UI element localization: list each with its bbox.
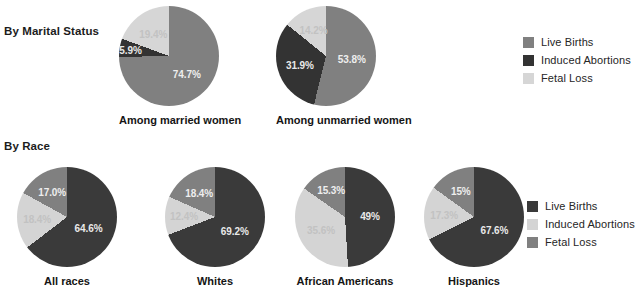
legend-label: Live Births bbox=[545, 200, 597, 212]
legend-item[interactable]: Fetal Loss bbox=[523, 70, 631, 86]
pie-chart-all-races: 64.6%18.4%17.0% All races bbox=[17, 167, 117, 267]
pie-graphic: 74.7%5.9%19.4% bbox=[119, 6, 219, 106]
pie-slice-label: 53.8% bbox=[338, 54, 366, 65]
section-title-marital-status: By Marital Status bbox=[4, 25, 99, 37]
pie-slice-label: 31.9% bbox=[286, 59, 314, 70]
pie-chart-hispanics: 67.6%17.3%15% Hispanics bbox=[424, 167, 524, 267]
pie-chart-among-unmarried-women: 53.8%31.9%14.2% Among unmarried women bbox=[276, 6, 376, 106]
pie-slice-label: 67.6% bbox=[480, 224, 508, 235]
pie-slice-label: 74.7% bbox=[173, 68, 201, 79]
section-title-race: By Race bbox=[4, 140, 50, 152]
legend-label: Induced Abortions bbox=[545, 218, 635, 230]
pie-graphic: 64.6%18.4%17.0% bbox=[17, 167, 117, 267]
legend-item[interactable]: Live Births bbox=[523, 34, 631, 50]
legend-item[interactable]: Live Births bbox=[527, 198, 635, 214]
pie-slice-label: 18.4% bbox=[23, 214, 51, 225]
pie-slice-label: 17.3% bbox=[430, 209, 458, 220]
legend-item[interactable]: Induced Abortions bbox=[523, 52, 631, 68]
pie-chart-whites: 69.2%12.4%18.4% Whites bbox=[165, 167, 265, 267]
pie-slice-label: 35.6% bbox=[307, 225, 335, 236]
legend-swatch-induced-abortions bbox=[523, 55, 534, 66]
pie-graphic: 69.2%12.4%18.4% bbox=[165, 167, 265, 267]
legend-label: Induced Abortions bbox=[541, 54, 631, 66]
legend-item[interactable]: Fetal Loss bbox=[527, 234, 635, 250]
pie-caption: Among married women bbox=[119, 114, 219, 126]
legend-label: Fetal Loss bbox=[541, 72, 593, 84]
legend-bottom: Live BirthsInduced AbortionsFetal Loss bbox=[527, 198, 635, 252]
pie-slice-label: 17.0% bbox=[38, 187, 66, 198]
pie-graphic: 53.8%31.9%14.2% bbox=[276, 6, 376, 106]
pie-slice-label: 64.6% bbox=[75, 222, 103, 233]
pie-slice-label: 14.2% bbox=[300, 24, 328, 35]
pie-slice-label: 12.4% bbox=[170, 211, 198, 222]
pie-graphic: 67.6%17.3%15% bbox=[424, 167, 524, 267]
legend-swatch-live-births bbox=[523, 37, 534, 48]
pie-slice-label: 15% bbox=[451, 186, 471, 197]
pie-caption: Among unmarried women bbox=[276, 114, 376, 126]
pie-chart-among-married-women: 74.7%5.9%19.4% Among married women bbox=[119, 6, 219, 106]
legend-item[interactable]: Induced Abortions bbox=[527, 216, 635, 232]
pie-slice-label: 19.4% bbox=[139, 28, 167, 39]
pie-slice-label: 49% bbox=[360, 211, 380, 222]
pie-graphic: 49%35.6%15.3% bbox=[295, 167, 395, 267]
legend-swatch-induced-abortions bbox=[527, 219, 538, 230]
pie-caption: African Americans bbox=[295, 275, 395, 287]
legend-label: Live Births bbox=[541, 36, 593, 48]
pie-slice-label: 5.9% bbox=[119, 44, 141, 55]
pie-slice-label: 18.4% bbox=[185, 187, 213, 198]
legend-swatch-live-births bbox=[527, 201, 538, 212]
pie-chart-african-americans: 49%35.6%15.3% African Americans bbox=[295, 167, 395, 267]
pie-caption: Hispanics bbox=[424, 275, 524, 287]
legend-swatch-fetal-loss bbox=[527, 237, 538, 248]
pie-slice-label: 69.2% bbox=[221, 225, 249, 236]
legend-top: Live BirthsInduced AbortionsFetal Loss bbox=[523, 34, 631, 88]
pie-caption: Whites bbox=[165, 275, 265, 287]
legend-label: Fetal Loss bbox=[545, 236, 597, 248]
pie-slice-label: 15.3% bbox=[317, 185, 345, 196]
legend-swatch-fetal-loss bbox=[523, 73, 534, 84]
pie-caption: All races bbox=[17, 275, 117, 287]
